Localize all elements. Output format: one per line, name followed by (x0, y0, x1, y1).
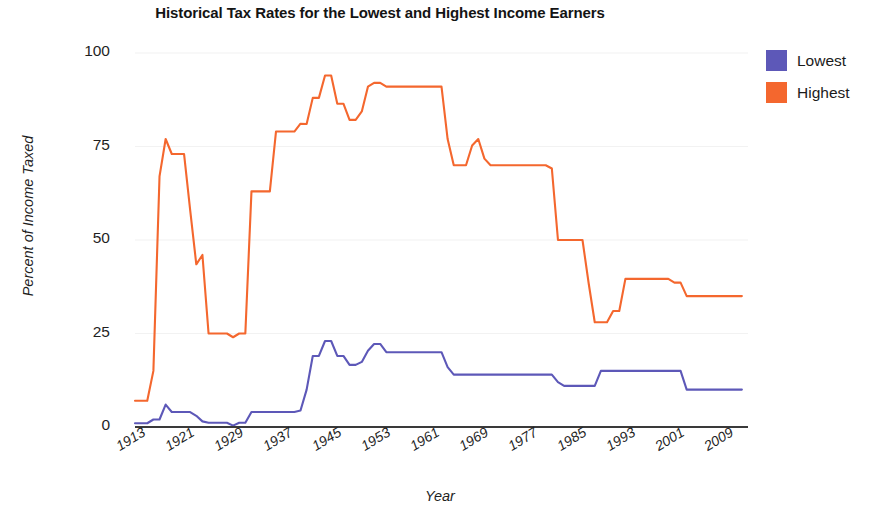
legend-swatch-highest (766, 82, 787, 103)
series-line-lowest (135, 341, 742, 426)
y-axis-label: Percent of Income Taxed (20, 96, 36, 336)
x-axis-label: Year (135, 488, 745, 504)
data-series-layer (135, 75, 742, 425)
chart-legend: Lowest Highest (766, 47, 850, 111)
legend-swatch-lowest (766, 50, 787, 71)
chart-container: Historical Tax Rates for the Lowest and … (0, 0, 871, 520)
legend-label-lowest: Lowest (797, 52, 846, 70)
legend-item-highest[interactable]: Highest (766, 79, 850, 106)
legend-item-lowest[interactable]: Lowest (766, 47, 850, 74)
y-axis-tick-label: 25 (48, 323, 110, 341)
y-axis-tick-label: 75 (48, 136, 110, 154)
y-axis-tick-label: 50 (48, 229, 110, 247)
y-axis-tick-label: 0 (48, 416, 110, 434)
legend-label-highest: Highest (797, 84, 850, 102)
y-axis-tick-label: 100 (48, 42, 110, 60)
